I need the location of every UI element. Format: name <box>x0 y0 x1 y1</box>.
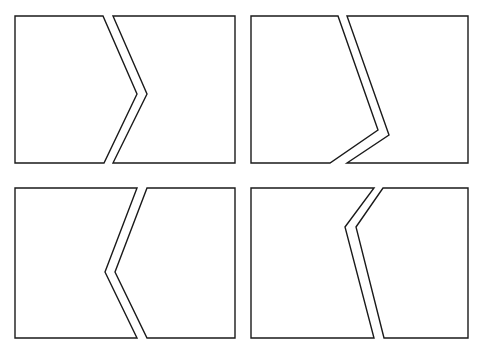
panel-bottom-left-right-piece <box>115 188 235 338</box>
split-shapes-diagram <box>0 0 482 352</box>
panel-top-right <box>251 16 468 163</box>
panel-bottom-right <box>251 188 468 338</box>
panel-top-left <box>15 16 235 163</box>
panel-bottom-right-left-piece <box>251 188 374 338</box>
panel-bottom-right-right-piece <box>356 188 468 338</box>
panel-top-right-right-piece <box>347 16 468 163</box>
panel-top-left-left-piece <box>15 16 137 163</box>
panel-bottom-left <box>15 188 235 338</box>
